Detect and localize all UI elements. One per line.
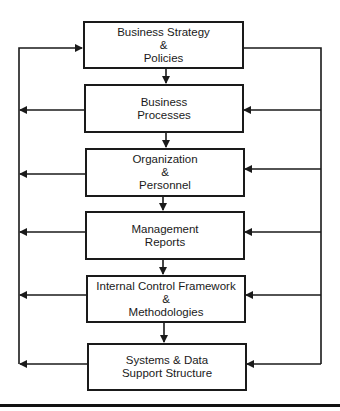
box-business-strategy-policies: Business Strategy & Policies (83, 21, 244, 69)
box-line: Business (141, 96, 188, 109)
box-line: Business Strategy (117, 26, 210, 39)
box-line: Management (131, 223, 198, 236)
box-line: Policies (144, 52, 184, 65)
box-line: Internal Control Framework (96, 280, 235, 293)
box-line: & (161, 166, 169, 179)
box-line: & (162, 293, 170, 306)
box-line: Personnel (139, 179, 191, 192)
box-line: & (160, 39, 168, 52)
box-line: Processes (137, 109, 191, 122)
bottom-divider (0, 404, 340, 407)
box-business-processes: Business Processes (84, 84, 244, 133)
box-line: Methodologies (129, 306, 204, 319)
box-organization-personnel: Organization & Personnel (85, 148, 245, 197)
box-line: Support Structure (122, 367, 212, 380)
box-line: Systems & Data (126, 354, 208, 367)
box-line: Organization (132, 153, 197, 166)
box-systems-data-support: Systems & Data Support Structure (87, 343, 247, 391)
box-management-reports: Management Reports (85, 211, 245, 260)
box-internal-control-framework: Internal Control Framework & Methodologi… (86, 275, 246, 323)
box-line: Reports (145, 236, 185, 249)
